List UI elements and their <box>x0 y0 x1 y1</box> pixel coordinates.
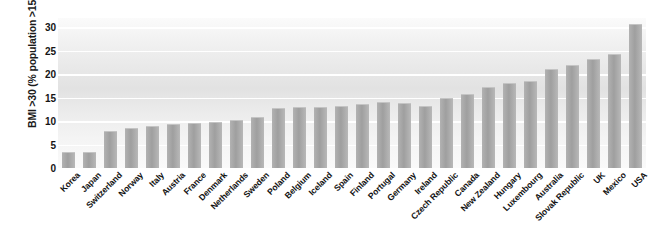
bar <box>545 69 559 168</box>
bar <box>566 65 580 168</box>
y-tick-label: 30 <box>30 22 56 33</box>
bar-series <box>58 18 646 168</box>
bar <box>629 24 643 168</box>
bar <box>251 117 265 168</box>
y-tick-label: 0 <box>30 163 56 174</box>
bar <box>524 81 538 168</box>
bar <box>125 128 139 168</box>
x-tick-label: UK <box>591 170 607 186</box>
plot-area <box>58 18 646 168</box>
x-axis-tick-labels: KoreaJapanSwitzerlandNorwayItalyAustriaF… <box>58 170 646 244</box>
y-tick-label: 20 <box>30 69 56 80</box>
bar <box>503 83 517 168</box>
bar <box>356 104 370 168</box>
bar <box>167 124 181 168</box>
bmi-obesity-bar-chart: BMI >30 (% population >15 years) 0510152… <box>0 0 651 244</box>
bar <box>440 98 454 168</box>
bar <box>482 87 496 168</box>
y-tick-label: 5 <box>30 139 56 150</box>
x-tick-label: USA <box>629 170 649 190</box>
y-axis-tick-labels: 051015202530 <box>30 18 56 168</box>
bar <box>83 152 97 168</box>
bar <box>398 103 412 168</box>
bar <box>587 59 601 168</box>
bar <box>461 94 475 168</box>
bar <box>146 126 160 168</box>
y-tick-label: 25 <box>30 45 56 56</box>
y-tick-label: 10 <box>30 116 56 127</box>
bar <box>209 122 223 168</box>
bar <box>104 131 118 168</box>
bar <box>608 54 622 168</box>
y-tick-label: 15 <box>30 92 56 103</box>
bar <box>335 106 349 168</box>
bar <box>314 107 328 168</box>
bar <box>188 123 202 168</box>
bar <box>419 106 433 168</box>
bar <box>293 107 307 168</box>
bar <box>377 102 391 168</box>
x-tick-label: Korea <box>58 170 82 194</box>
bar <box>62 152 76 168</box>
bar <box>230 120 244 168</box>
bar <box>272 108 286 168</box>
